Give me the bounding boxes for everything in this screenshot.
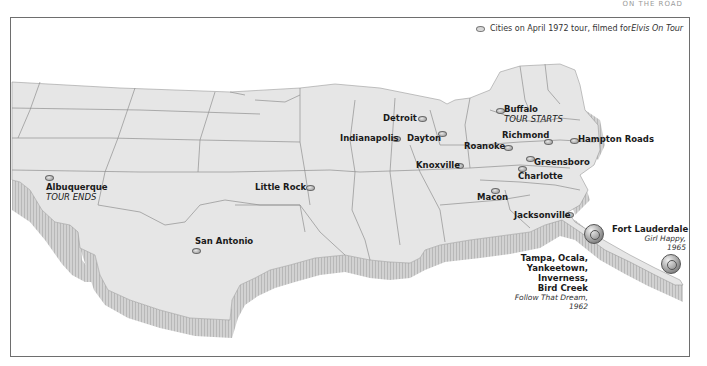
location-name: Bird Creek	[510, 283, 588, 293]
film-title: Girl Happy,	[612, 234, 686, 243]
city-label-san-antonio: San Antonio	[195, 236, 253, 246]
city-marker-icon	[476, 26, 485, 32]
film-title: Follow That Dream,	[510, 293, 588, 302]
film-year: 1965	[612, 243, 686, 252]
city-label-little-rock: Little Rock	[255, 182, 306, 192]
city-name: Buffalo	[504, 104, 538, 114]
map-legend: Cities on April 1972 tour, filmed for El…	[476, 24, 683, 33]
city-label-indianapolis: Indianapolis	[340, 133, 399, 143]
film-location-tampa-area: Tampa, Ocala, Yankeetown, Inverness, Bir…	[510, 253, 588, 311]
film-reel-icon	[584, 224, 604, 244]
city-label-buffalo: Buffalo TOUR STARTS	[504, 104, 563, 124]
city-label-knoxville: Knoxville	[416, 160, 460, 170]
city-label-dayton: Dayton	[407, 133, 441, 143]
city-marker-icon	[45, 175, 54, 181]
film-location-fort-lauderdale: Fort Lauderdale Girl Happy, 1965	[612, 224, 686, 252]
city-marker-icon	[306, 185, 315, 191]
location-name: Fort Lauderdale	[612, 224, 688, 234]
city-label-detroit: Detroit	[383, 113, 417, 123]
city-label-greensboro: Greensboro	[534, 157, 590, 167]
city-label-jacksonville: Jacksonville	[514, 210, 571, 220]
location-name: Inverness,	[510, 273, 588, 283]
location-name: Tampa, Ocala,	[510, 253, 588, 263]
legend-film-title: Elvis On Tour	[631, 24, 683, 33]
film-reel-icon	[661, 254, 681, 274]
city-label-richmond: Richmond	[502, 130, 549, 140]
city-label-charlotte: Charlotte	[518, 171, 563, 181]
city-marker-icon	[418, 116, 427, 122]
city-marker-icon	[504, 145, 513, 151]
city-marker-icon	[192, 248, 201, 254]
tour-start-note: TOUR STARTS	[504, 114, 563, 124]
city-label-macon: Macon	[477, 192, 508, 202]
location-name: Yankeetown,	[510, 263, 588, 273]
film-year: 1962	[510, 302, 588, 311]
city-label-hampton-roads: Hampton Roads	[578, 134, 654, 144]
city-label-roanoke: Roanoke	[464, 141, 505, 151]
city-label-albuquerque: Albuquerque TOUR ENDS	[46, 182, 108, 202]
tour-end-note: TOUR ENDS	[46, 192, 108, 202]
city-name: Albuquerque	[46, 182, 108, 192]
legend-text: Cities on April 1972 tour, filmed for	[490, 24, 631, 33]
